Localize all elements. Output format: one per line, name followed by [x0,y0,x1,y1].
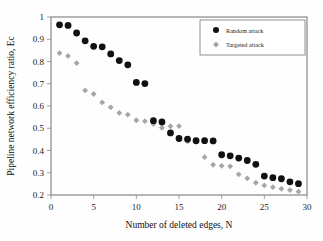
data-point [219,163,225,169]
data-point [269,174,276,181]
data-point [287,187,293,193]
data-point [91,91,97,97]
y-tick-label: 0.8 [33,57,45,67]
data-point [210,138,217,145]
y-tick-label: 0.7 [33,79,45,89]
legend-label-random-attack: Random attack [226,27,264,34]
data-point [159,125,165,131]
data-point [65,53,71,59]
data-point [261,173,268,180]
data-point [193,137,200,144]
data-point [210,162,216,168]
data-point [202,154,208,160]
x-tick-label: 30 [303,202,313,212]
data-point [227,163,233,169]
x-axis-title: Number of deleted edges, N [126,220,233,230]
data-point [99,100,105,106]
data-point [73,30,80,37]
data-point [244,157,251,164]
legend-label-targeted-attack: Targeted attack [226,41,265,48]
data-point [184,136,191,143]
data-point [125,112,131,118]
data-point [176,135,183,142]
data-point [295,180,302,187]
y-tick-label: 1 [40,12,45,22]
x-tick-label: 20 [217,202,227,212]
data-point [176,123,182,129]
data-point [133,117,139,123]
x-tick-label: 25 [260,202,270,212]
x-tick-label: 15 [175,202,185,212]
data-point [116,110,122,116]
chart-figure: 0.20.30.40.50.60.70.80.91 051015202530 N… [0,0,323,241]
data-point [99,43,106,50]
data-point [167,130,174,137]
data-point [227,152,234,159]
data-point [141,80,148,87]
y-tick-label: 0.3 [33,168,45,178]
data-point [133,79,140,86]
x-tick-label: 10 [132,202,142,212]
data-point [150,117,157,124]
x-tick-label: 5 [91,202,96,212]
data-point [244,175,250,181]
data-point [296,189,302,195]
data-point [279,186,285,192]
data-point [236,171,242,177]
data-point [278,175,285,182]
data-point [159,119,166,126]
scatter-plot-canvas: 0.20.30.40.50.60.70.80.91 051015202530 N… [0,0,323,241]
data-point [252,161,259,168]
y-tick-label: 0.2 [33,190,44,200]
data-point [124,61,131,68]
legend-marker-random-attack [213,27,219,33]
data-point [56,21,63,28]
data-point [270,184,276,190]
y-tick-label: 0.6 [33,101,45,111]
data-point [253,180,259,186]
data-point [108,104,114,110]
data-point [90,43,97,50]
y-tick-label: 0.5 [33,123,45,133]
data-point [107,51,114,58]
data-point [142,118,148,124]
data-point [168,123,174,129]
x-tick-label: 0 [49,202,54,212]
x-axis-ticks: 051015202530 [49,195,312,212]
y-tick-label: 0.9 [33,34,45,44]
y-axis-title: Pipeline network efficiency ratio, Ec [6,36,16,175]
data-point [82,37,89,44]
data-point [74,60,80,66]
data-point [235,155,242,162]
data-point [261,183,267,189]
data-point [218,151,225,158]
y-axis-ticks: 0.20.30.40.50.60.70.80.91 [33,12,51,200]
data-point [65,22,72,29]
y-tick-label: 0.4 [33,146,45,156]
legend: Random attack Targeted attack [200,20,305,55]
data-point [201,137,208,144]
data-point [287,178,294,185]
data-point [57,50,63,56]
data-point [116,57,123,64]
data-point [82,88,88,94]
